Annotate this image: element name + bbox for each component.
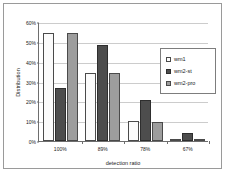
y-tick-label: 20% (26, 100, 36, 105)
x-tick-mark (167, 141, 168, 144)
bar-wm1-67% (170, 139, 181, 141)
bar-wm1-100% (43, 33, 54, 141)
x-tick-label: 89% (98, 146, 108, 152)
y-axis-title: Distribution (13, 23, 23, 142)
legend-swatch-icon (166, 57, 171, 62)
y-tick-label: 60% (26, 21, 36, 26)
y-tick-label: 10% (26, 120, 36, 125)
x-tick-mark (82, 141, 83, 144)
legend-swatch-icon (166, 69, 171, 74)
x-tick-label: 78% (140, 146, 150, 152)
legend-label: wm2-pro (174, 80, 195, 86)
bar-wm2-pro-100% (67, 33, 78, 141)
bar-wm1-89% (85, 73, 96, 141)
legend-label: wm1 (174, 56, 186, 62)
bar-wm2-pro-89% (109, 73, 120, 141)
legend-swatch-icon (166, 81, 171, 86)
legend-item-wm2-pro[interactable]: wm2-pro (166, 77, 211, 89)
x-tick-mark (209, 141, 210, 144)
bar-group (85, 23, 120, 141)
bar-wm2-st-78% (140, 100, 151, 141)
x-tick-mark (124, 141, 125, 144)
bar-wm2-st-67% (182, 133, 193, 141)
y-tick-label: 30% (26, 80, 36, 85)
legend-item-wm1[interactable]: wm1 (166, 53, 211, 65)
x-axis-title: detection ratio (38, 160, 208, 166)
chart-legend: wm1wm2-stwm2-pro (160, 48, 216, 94)
bar-wm2-st-100% (55, 88, 66, 141)
legend-item-wm2-st[interactable]: wm2-st (166, 65, 211, 77)
bar-group (43, 23, 78, 141)
bar-wm2-pro-67% (194, 139, 205, 141)
legend-label: wm2-st (174, 68, 192, 74)
y-tick-label: 0% (29, 140, 36, 145)
bar-group (128, 23, 163, 141)
y-tick-label: 50% (26, 40, 36, 45)
bar-wm1-78% (128, 121, 139, 141)
y-tick-mark (37, 142, 39, 143)
figure-frame: Distribution 0%10%20%30%40%50%60% 100%89… (3, 3, 222, 169)
x-tick-label: 100% (54, 146, 67, 152)
bar-wm2-st-89% (97, 45, 108, 141)
bar-wm2-pro-78% (152, 122, 163, 141)
y-tick-label: 40% (26, 60, 36, 65)
x-tick-label: 67% (183, 146, 193, 152)
